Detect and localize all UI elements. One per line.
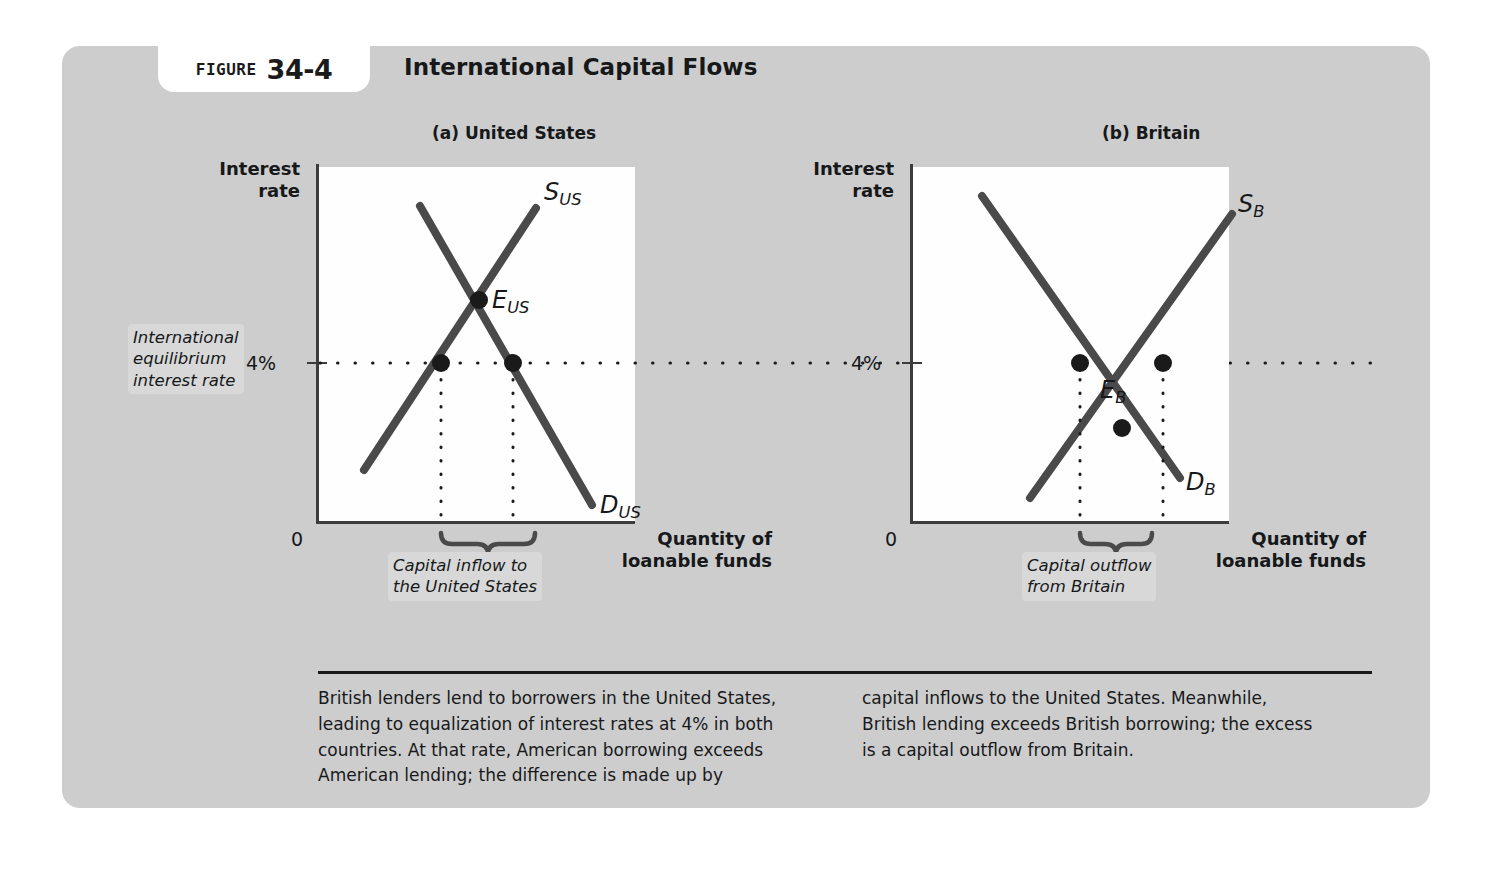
caption-column-right: capital inflows to the United States. Me… xyxy=(862,686,1372,763)
marker-demand-at-4pct-britain xyxy=(1071,354,1089,372)
marker-supply-at-4pct-britain xyxy=(1154,354,1172,372)
bracket-capital-outflow xyxy=(1080,533,1152,554)
curve-label-demand-britain: DB xyxy=(1186,468,1216,499)
demand-curve-britain xyxy=(982,196,1180,478)
callout-capital-outflow: Capital outflow from Britain xyxy=(1022,552,1156,601)
caption-column-left: British lenders lend to borrowers in the… xyxy=(318,686,818,789)
curve-label-supply-britain: SB xyxy=(1238,190,1264,221)
figure-panel: FIGURE 34-4 International Capital Flows … xyxy=(62,46,1430,808)
curve-label-equilibrium-britain: EB xyxy=(1100,376,1126,407)
caption-divider xyxy=(318,671,1372,674)
supply-curve-britain xyxy=(1030,214,1232,498)
marker-equilibrium-britain xyxy=(1113,419,1131,437)
